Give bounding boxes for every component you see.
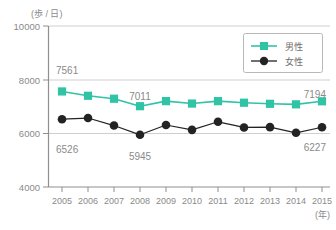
x-tick-label-2012: 2012 xyxy=(234,196,254,206)
x-tick-label-2011: 2011 xyxy=(208,196,227,206)
y-tick-label-8000: 8000 xyxy=(19,75,40,86)
data-label-male-2008: 7011 xyxy=(129,91,151,102)
data-point-male-2008 xyxy=(136,102,144,110)
steps-per-day-line-chart: 10000 8000 6000 4000 (歩 / 日) 2005 2006 2… xyxy=(0,0,336,230)
x-tick-label-2008: 2008 xyxy=(130,196,150,206)
y-tick-label-6000: 6000 xyxy=(19,128,40,139)
x-tick-label-2013: 2013 xyxy=(260,196,280,206)
x-tick-label-2007: 2007 xyxy=(104,196,124,206)
data-point-female-2010 xyxy=(188,126,197,135)
data-point-female-2012 xyxy=(240,123,249,132)
data-point-female-2005 xyxy=(58,115,67,124)
data-point-male-2007 xyxy=(110,95,118,103)
y-tick-marks xyxy=(43,26,48,187)
series-markers-male xyxy=(58,87,326,110)
data-point-female-2007 xyxy=(110,121,119,130)
x-tick-label-2010: 2010 xyxy=(182,196,202,206)
data-point-male-2011 xyxy=(214,97,222,105)
data-point-female-2014 xyxy=(292,129,301,138)
data-point-female-2011 xyxy=(214,118,223,127)
legend-marker-circle-icon xyxy=(260,57,268,65)
data-point-male-2005 xyxy=(58,87,66,95)
y-tick-label-4000: 4000 xyxy=(19,182,40,193)
legend-label-female: 女性 xyxy=(285,56,303,67)
legend[interactable]: 男性 女性 xyxy=(244,34,323,73)
data-point-male-2014 xyxy=(292,100,300,108)
y-axis-unit-label: (歩 / 日) xyxy=(31,8,63,19)
data-point-female-2015 xyxy=(318,123,327,132)
legend-label-male: 男性 xyxy=(285,41,303,52)
x-tick-label-2015: 2015 xyxy=(312,196,332,206)
data-point-female-2008 xyxy=(136,131,145,140)
data-label-female-2015: 6227 xyxy=(304,142,327,153)
y-tick-labels: 10000 8000 6000 4000 xyxy=(14,21,40,193)
legend-marker-square-icon xyxy=(260,42,268,50)
x-tick-label-2006: 2006 xyxy=(78,196,98,206)
data-label-female-2005: 6526 xyxy=(56,144,79,155)
data-point-male-2013 xyxy=(266,100,274,108)
data-point-male-2012 xyxy=(240,99,248,107)
x-tick-label-2014: 2014 xyxy=(286,196,306,206)
chart-canvas: 10000 8000 6000 4000 (歩 / 日) 2005 2006 2… xyxy=(0,0,336,230)
series-markers-female xyxy=(58,114,327,139)
data-point-male-2006 xyxy=(84,92,92,100)
data-label-male-2005: 7561 xyxy=(56,65,79,76)
data-point-female-2013 xyxy=(266,123,275,132)
data-point-male-2010 xyxy=(188,99,196,107)
data-point-female-2009 xyxy=(162,121,171,130)
data-point-male-2009 xyxy=(162,97,170,105)
data-label-male-2015: 7194 xyxy=(304,89,327,100)
x-tick-label-2005: 2005 xyxy=(52,196,72,206)
x-tick-marks xyxy=(62,187,322,192)
x-axis-unit-label: (年) xyxy=(315,209,330,220)
data-label-female-2008: 5945 xyxy=(129,151,152,162)
y-tick-label-10000: 10000 xyxy=(14,21,40,32)
data-point-female-2006 xyxy=(84,114,93,123)
x-tick-label-2009: 2009 xyxy=(156,196,176,206)
legend-box xyxy=(244,34,323,73)
x-tick-labels: 2005 2006 2007 2008 2009 2010 2011 2012 … xyxy=(52,196,332,206)
